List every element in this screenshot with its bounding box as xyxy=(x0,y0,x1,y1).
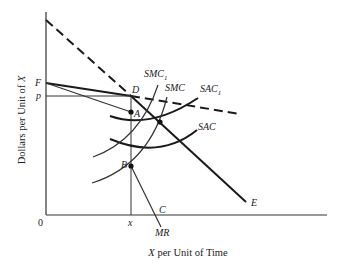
line-fd xyxy=(46,83,131,96)
label-a: A xyxy=(133,108,141,119)
label-sac1: SAC1 xyxy=(200,83,221,97)
label-b: B xyxy=(121,159,127,170)
mr-upper-line xyxy=(46,83,131,112)
label-origin: 0 xyxy=(38,217,43,228)
label-smc1: SMC1 xyxy=(144,68,168,82)
label-smc: SMC xyxy=(165,82,185,93)
label-d: D xyxy=(131,84,140,95)
label-sac: SAC xyxy=(198,121,216,132)
label-f: F xyxy=(34,77,42,88)
y-axis-title: Dollars per Unit of X xyxy=(16,75,27,164)
x-axis-title: X per Unit of Time xyxy=(147,247,228,258)
label-c: C xyxy=(159,204,166,215)
point-b-dot xyxy=(128,163,133,168)
mr-lower-line xyxy=(131,166,161,227)
point-a-dot xyxy=(128,109,133,114)
label-x: x xyxy=(127,217,133,228)
label-e: E xyxy=(250,197,257,208)
label-p: p xyxy=(35,90,41,101)
intersection-dot xyxy=(157,119,162,124)
cost-curves-diagram: F p D A B C E x MR 0 SMC1 SMC SAC1 SAC X… xyxy=(0,0,341,263)
label-mr: MR xyxy=(154,227,169,238)
